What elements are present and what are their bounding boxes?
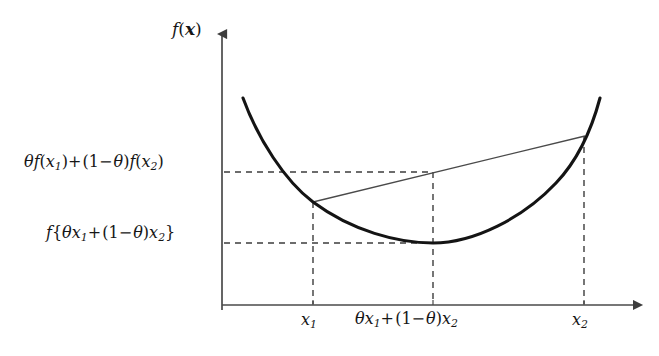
y-upper-theta: θ xyxy=(24,152,34,171)
y-lower-one: 1 xyxy=(108,223,118,242)
y-upper-sub1: 1 xyxy=(55,160,62,173)
y-upper-sub2: 2 xyxy=(151,160,158,173)
xmid-sub1: 1 xyxy=(374,317,381,330)
y-caption-paren-open: ( xyxy=(178,19,185,39)
y-upper-theta2: θ xyxy=(114,152,124,171)
x-tick-label-x2: x2 xyxy=(572,312,588,331)
xmid-plus: + xyxy=(381,309,396,328)
xmid-minus: − xyxy=(412,309,427,328)
y-axis-caption: f(x) xyxy=(172,21,202,38)
y-lower-x1: x xyxy=(72,223,81,242)
y-upper-x2: x xyxy=(142,152,151,171)
y-lower-brace-open: { xyxy=(52,223,62,242)
convex-curve xyxy=(243,98,600,243)
y-upper-plus: + xyxy=(68,152,83,171)
y-upper-x1: x xyxy=(46,152,55,171)
figure-canvas xyxy=(0,0,659,356)
x2-variable: x xyxy=(572,310,581,329)
y-upper-one: 1 xyxy=(89,152,99,171)
xmid-x1: x xyxy=(365,309,374,328)
convex-function-figure: f(x) θf(x1)+(1−θ)f(x2) f{θx1+(1−θ)x2} x1… xyxy=(0,0,659,356)
x2-subscript: 2 xyxy=(581,318,588,331)
xmid-x2: x xyxy=(442,309,451,328)
y-lower-x2: x xyxy=(149,223,158,242)
y-caption-paren-close: ) xyxy=(195,19,202,39)
y-upper-minus: − xyxy=(99,152,114,171)
y-lower-plus: + xyxy=(88,223,103,242)
y-lower-sub2: 2 xyxy=(158,231,165,244)
x-tick-label-combination: θx1+(1−θ)x2 xyxy=(355,311,458,330)
y-lower-minus: − xyxy=(119,223,134,242)
y-caption-variable: x xyxy=(185,19,195,39)
xmid-one: 1 xyxy=(401,309,411,328)
y-lower-theta: θ xyxy=(62,223,72,242)
xmid-theta: θ xyxy=(355,309,365,328)
y-lower-sub1: 1 xyxy=(81,231,88,244)
xmid-theta2: θ xyxy=(426,309,436,328)
y-label-chord-value: θf(x1)+(1−θ)f(x2) xyxy=(24,154,164,173)
chord-line xyxy=(313,136,585,202)
x-tick-label-x1: x1 xyxy=(301,312,317,331)
y-label-function-value: f{θx1+(1−θ)x2} xyxy=(46,225,175,244)
x1-variable: x xyxy=(301,310,310,329)
y-upper-close3: ) xyxy=(158,152,164,171)
y-lower-brace-close: } xyxy=(165,223,175,242)
xmid-sub2: 2 xyxy=(451,317,458,330)
y-lower-theta2: θ xyxy=(133,223,143,242)
x1-subscript: 1 xyxy=(310,318,317,331)
